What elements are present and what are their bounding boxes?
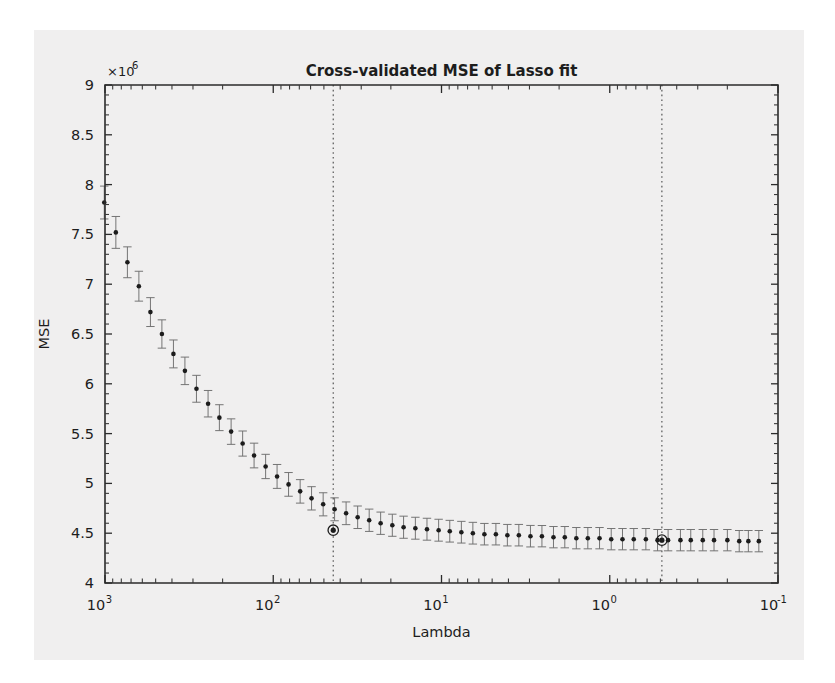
y-tick-label: 8	[85, 177, 94, 193]
mse-marker	[217, 415, 222, 420]
y-tick-label: 6.5	[71, 326, 94, 342]
x-tick-label-base: 10	[87, 597, 105, 613]
y-axis-exponent-base: ×10	[107, 64, 134, 79]
data-point	[204, 390, 212, 416]
y-tick-label: 5	[85, 475, 94, 491]
mse-marker	[413, 526, 418, 531]
mse-marker	[725, 538, 730, 543]
highlight-dot	[331, 528, 336, 533]
mse-marker	[160, 332, 165, 337]
data-point	[112, 216, 120, 248]
x-tick-label: 103	[87, 594, 112, 613]
mse-marker	[482, 532, 487, 537]
mse-marker	[459, 530, 464, 535]
data-point	[146, 298, 154, 327]
y-axis-exponent: ×106	[107, 60, 138, 79]
mse-marker	[688, 538, 693, 543]
data-point	[469, 522, 477, 544]
mse-marker	[378, 521, 383, 526]
data-point	[735, 531, 743, 552]
data-point	[250, 443, 258, 468]
plot-box	[105, 85, 778, 583]
mse-marker	[355, 515, 360, 520]
mse-marker	[183, 369, 188, 374]
x-tick-label: 101	[423, 594, 448, 613]
mse-marker	[620, 537, 625, 542]
mse-marker	[597, 536, 602, 541]
data-point	[457, 521, 465, 543]
mse-marker	[494, 532, 499, 537]
x-tick-label-base: 10	[255, 597, 273, 613]
data-point	[284, 473, 292, 497]
data-point	[676, 530, 684, 551]
x-tick-label-exponent: 1	[442, 594, 448, 605]
data-point	[744, 531, 752, 552]
mse-marker	[447, 529, 452, 534]
mse-marker	[574, 536, 579, 541]
data-point	[561, 527, 569, 548]
mse-marker	[125, 260, 130, 265]
x-tick-label-exponent: 2	[274, 594, 280, 605]
data-point	[526, 525, 534, 547]
data-point	[238, 431, 246, 456]
mse-marker	[332, 507, 337, 512]
mse-marker	[390, 523, 395, 528]
mse-marker	[252, 453, 257, 458]
data-point	[169, 340, 177, 368]
data-point	[503, 524, 511, 546]
x-axis-label: Lambda	[412, 624, 470, 640]
mse-marker	[551, 535, 556, 540]
data-point	[607, 529, 615, 550]
data-point	[215, 405, 223, 431]
data-point	[365, 509, 373, 531]
mse-marker	[540, 534, 545, 539]
data-point	[723, 530, 731, 551]
data-point	[399, 516, 407, 538]
data-point	[595, 528, 603, 549]
x-tick-label: 100	[592, 594, 617, 613]
mse-marker	[528, 534, 533, 539]
data-point	[642, 529, 650, 550]
x-tick-label-base: 10	[592, 597, 610, 613]
mse-marker	[609, 537, 614, 542]
data-point	[181, 357, 189, 384]
data-point	[630, 529, 638, 550]
mse-marker	[240, 441, 245, 446]
x-tick-label-base: 10	[423, 597, 441, 613]
mse-marker	[401, 525, 406, 530]
mse-marker	[344, 511, 349, 516]
mse-marker	[712, 538, 717, 543]
mse-marker	[229, 429, 234, 434]
mse-marker	[194, 386, 199, 391]
mse-marker	[321, 502, 326, 507]
mse-marker	[137, 284, 142, 289]
data-point	[376, 512, 384, 534]
data-point	[755, 531, 763, 552]
highlight-dot	[659, 538, 664, 543]
data-point	[699, 530, 707, 551]
mse-marker	[517, 533, 522, 538]
mse-marker	[114, 230, 119, 235]
data-point	[123, 247, 131, 278]
data-point	[319, 493, 327, 516]
y-tick-label: 4.5	[71, 525, 94, 541]
data-point	[423, 518, 431, 540]
y-tick-label: 6	[85, 376, 94, 392]
data-point	[664, 530, 672, 551]
mse-marker	[631, 537, 636, 542]
mse-marker	[586, 536, 591, 541]
mse-marker	[562, 535, 567, 540]
data-point	[296, 480, 304, 504]
mse-marker	[644, 537, 649, 542]
data-point	[710, 530, 718, 551]
axes-group	[105, 85, 778, 583]
data-point	[515, 524, 523, 546]
data-point	[273, 464, 281, 488]
mse-marker	[700, 538, 705, 543]
mse-marker	[436, 528, 441, 533]
data-point	[480, 523, 488, 545]
cross-validated-mse-chart: 44.555.566.577.588.5910310210110010-1×10…	[0, 0, 835, 683]
mse-marker	[746, 539, 751, 544]
mse-marker	[757, 539, 762, 544]
mse-marker	[286, 482, 291, 487]
